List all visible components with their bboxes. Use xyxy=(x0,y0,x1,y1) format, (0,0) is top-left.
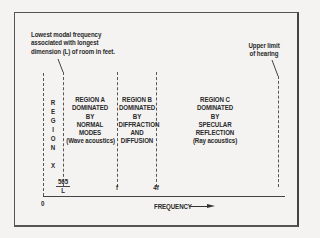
region-line: DOMINATED xyxy=(189,104,242,112)
region-line: MODES xyxy=(66,129,114,137)
tick-denominator: L xyxy=(56,187,70,195)
upper-limit-leader xyxy=(272,60,278,76)
letter: O xyxy=(48,134,59,143)
region-line: (Wave acoustics) xyxy=(66,137,114,145)
letter: N xyxy=(48,143,59,152)
axis-origin: 0 xyxy=(41,200,44,208)
region-c-label: REGION C DOMINATED BY SPECULAR REFLECTIO… xyxy=(189,96,242,146)
letter: I xyxy=(48,125,59,134)
region-line: DOMINATED xyxy=(66,104,114,112)
letter: R xyxy=(48,98,59,107)
region-line: BY xyxy=(119,113,156,121)
tick-565-over-l: 565 L xyxy=(56,178,70,195)
arrow-shaft xyxy=(189,206,208,207)
boundary-4f xyxy=(156,72,157,187)
frequency-axis xyxy=(43,196,285,197)
arrow-head-icon xyxy=(207,204,215,208)
region-line: DOMINATED xyxy=(119,104,156,112)
region-line: BY xyxy=(66,113,114,121)
region-line: REGION A xyxy=(66,96,114,104)
tick-numerator: 565 xyxy=(56,178,70,187)
tick-4f: 4f xyxy=(151,184,162,192)
axis-left-boundary xyxy=(43,73,44,196)
tick-f: f xyxy=(113,184,120,192)
region-line: DIFFUSION xyxy=(119,137,156,145)
region-b-label: REGION B DOMINATED BY DIFFRACTION AND DI… xyxy=(119,96,156,146)
region-line: (Ray acoustics) xyxy=(189,137,242,145)
region-line: REFLECTION xyxy=(189,129,242,137)
boundary-upper-limit xyxy=(278,76,279,187)
axis-label: FREQUENCY xyxy=(154,203,192,211)
letter: G xyxy=(48,116,59,125)
region-line: REGION B xyxy=(119,96,156,104)
region-line: DIFFRACTION xyxy=(119,121,156,129)
region-line: AND xyxy=(119,129,156,137)
boundary-565-over-l xyxy=(63,72,64,187)
region-line: REGION C xyxy=(189,96,242,104)
region-x-label: R E G I O N X xyxy=(48,98,59,170)
region-line: SPECULAR xyxy=(189,121,242,129)
letter-gap xyxy=(48,152,59,161)
letter: E xyxy=(48,107,59,116)
lowest-modal-leader xyxy=(58,59,63,72)
letter: X xyxy=(48,161,59,170)
region-line: NORMAL xyxy=(66,121,114,129)
region-line: BY xyxy=(189,113,242,121)
region-a-label: REGION A DOMINATED BY NORMAL MODES (Wave… xyxy=(66,96,114,146)
